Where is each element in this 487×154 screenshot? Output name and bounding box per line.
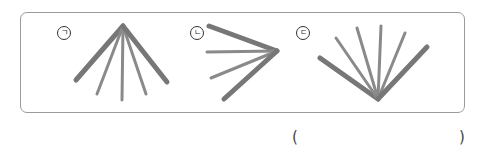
stick — [123, 26, 167, 82]
answer-field[interactable] — [313, 128, 453, 146]
stick — [209, 26, 277, 51]
stick — [378, 26, 381, 99]
figure-a — [76, 26, 167, 100]
answer-open-paren: ( — [292, 128, 298, 146]
stick — [122, 26, 123, 100]
stick — [207, 51, 277, 52]
stick — [320, 58, 378, 99]
figure-c — [320, 26, 427, 99]
stick — [76, 26, 123, 80]
stick — [123, 26, 146, 94]
stick — [224, 51, 277, 99]
stick — [378, 47, 427, 99]
stick — [378, 33, 405, 99]
answer-close-paren: ) — [459, 128, 465, 146]
figure-b — [207, 26, 277, 99]
stick — [336, 38, 378, 99]
stick — [97, 26, 123, 94]
stick — [211, 51, 277, 78]
